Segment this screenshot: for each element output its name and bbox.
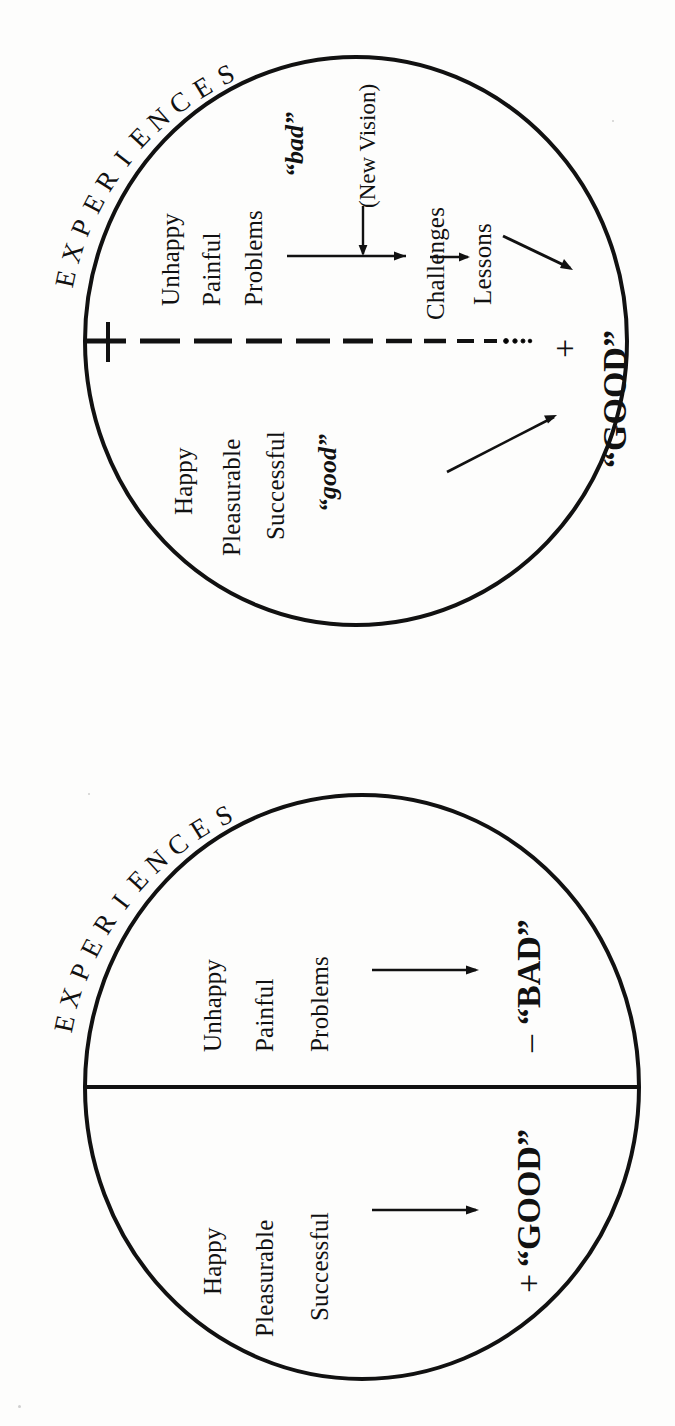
arrow-problems-to-challenges	[287, 252, 406, 261]
label-lessons: Lessons	[470, 223, 495, 305]
label-happy: Happy	[200, 1227, 225, 1295]
label-successful: Successful	[263, 431, 288, 540]
diagram-bottom-strokes	[0, 700, 675, 1426]
label-unhappy: Unhappy	[200, 959, 225, 1052]
label-painful: Painful	[252, 978, 277, 1052]
label-painful: Painful	[199, 232, 224, 306]
label-bad-quoted: “bad”	[282, 112, 308, 177]
sign-plus-bottom: +	[512, 1274, 546, 1293]
sign-minus-bottom: –	[512, 1035, 546, 1052]
arrow-lessons-to-good	[503, 236, 573, 270]
diagram-evolved-perception: EXPERIENCES Unhappy Painful Problems “ba…	[0, 0, 675, 700]
label-pleasurable: Pleasurable	[219, 439, 244, 556]
label-good-caps-top: “GOOD”	[598, 330, 632, 468]
label-problems: Problems	[241, 210, 266, 306]
label-good-caps-bottom: “GOOD”	[512, 1129, 546, 1267]
label-unhappy: Unhappy	[158, 213, 183, 306]
divider-dashed	[86, 339, 532, 344]
arrow-successful-to-good	[372, 1206, 479, 1215]
label-challenges: Challenges	[423, 207, 448, 320]
label-good-quoted: “good”	[315, 434, 341, 512]
label-bad-caps: “BAD”	[512, 919, 546, 1025]
label-new-vision: (New Vision)	[356, 84, 379, 208]
label-successful: Successful	[307, 1212, 332, 1321]
label-problems: Problems	[307, 956, 332, 1052]
label-pleasurable: Pleasurable	[252, 1220, 277, 1337]
scan-speck	[88, 793, 90, 795]
arrow-problems-to-bad	[372, 966, 479, 975]
arrow-good-to-good	[447, 415, 557, 472]
scan-speck	[18, 1405, 21, 1408]
scan-speck	[612, 120, 614, 122]
sign-plus-top: +	[548, 339, 582, 358]
arrow-new-vision	[359, 206, 368, 256]
label-happy: Happy	[171, 447, 196, 515]
scanned-page: EXPERIENCES Unhappy Painful Problems “ba…	[0, 0, 675, 1426]
diagram-ordinary-perception: EXPERIENCES Unhappy Painful Problems – “…	[0, 700, 675, 1426]
